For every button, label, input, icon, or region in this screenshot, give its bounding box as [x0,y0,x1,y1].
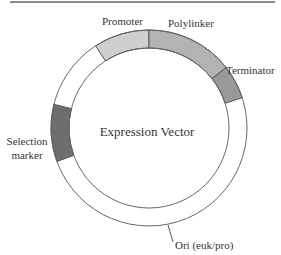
ori-leader-line [168,225,173,242]
label-terminator: Terminator [226,64,275,76]
label-ori: Ori (euk/pro) [175,239,234,252]
vector-title: Expression Vector [100,124,195,139]
label-selection-line2: marker [11,149,42,161]
plasmid-map: Expression Vector Promoter Polylinker Te… [0,0,281,255]
label-promoter: Promoter [102,15,143,27]
label-polylinker: Polylinker [168,17,214,29]
segment-promoter [96,30,149,61]
label-selection-line1: Selection [7,135,48,147]
segment-polylinker [149,30,226,79]
plasmid-segments [51,30,242,162]
